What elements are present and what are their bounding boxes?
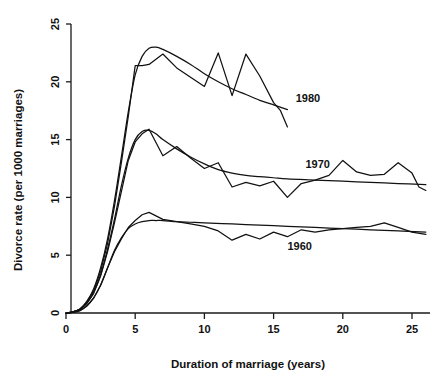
y-tick-label: 25 bbox=[49, 18, 61, 30]
y-tick-label: 20 bbox=[49, 76, 61, 88]
x-tick-label: 5 bbox=[132, 323, 138, 335]
series-1970-fitted bbox=[66, 130, 426, 313]
y-tick-label: 10 bbox=[49, 191, 61, 203]
chart-figure: 0510152025 0510152025 198019701960 Durat… bbox=[0, 0, 446, 385]
x-tick-label: 20 bbox=[337, 323, 349, 335]
y-tick-label: 15 bbox=[49, 133, 61, 145]
x-tick-label: 25 bbox=[406, 323, 418, 335]
y-axis-title: Divorce rate (per 1000 marriages) bbox=[12, 89, 24, 271]
series-group bbox=[66, 47, 426, 313]
series-1960-observed bbox=[66, 212, 426, 313]
y-tick-label: 0 bbox=[49, 310, 61, 316]
series-label-1960: 1960 bbox=[287, 240, 311, 252]
series-label-1970: 1970 bbox=[305, 158, 329, 170]
series-label-1980: 1980 bbox=[296, 92, 320, 104]
divorce-rate-line-chart: 0510152025 0510152025 198019701960 Durat… bbox=[0, 0, 446, 385]
x-tick-label: 15 bbox=[267, 323, 279, 335]
x-axis-ticks: 0510152025 bbox=[63, 313, 418, 335]
y-tick-label: 5 bbox=[49, 252, 61, 258]
y-axis-ticks: 0510152025 bbox=[49, 18, 71, 316]
x-tick-label: 0 bbox=[63, 323, 69, 335]
series-1970-observed bbox=[66, 129, 426, 313]
series-1980-fitted bbox=[66, 47, 287, 313]
x-tick-label: 10 bbox=[198, 323, 210, 335]
x-axis-title: Duration of marriage (years) bbox=[171, 358, 325, 370]
